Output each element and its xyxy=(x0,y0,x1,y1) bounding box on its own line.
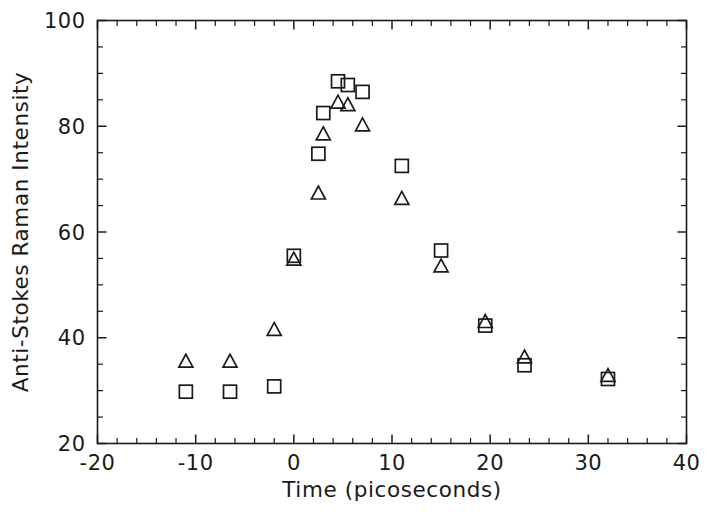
x-tick-label: 0 xyxy=(287,451,301,475)
data-point-square xyxy=(356,85,369,98)
data-point-triangle xyxy=(601,369,615,382)
data-point-triangle xyxy=(179,354,193,367)
data-point-square xyxy=(268,380,281,393)
y-axis-title: Anti-Stokes Raman Intensity xyxy=(8,72,33,393)
data-point-square xyxy=(601,372,614,385)
data-point-square xyxy=(179,385,192,398)
data-series-squares xyxy=(179,75,614,398)
data-series-triangles xyxy=(179,95,615,381)
data-point-square xyxy=(317,107,330,120)
plot-frame xyxy=(98,21,687,444)
data-point-triangle xyxy=(223,354,237,367)
y-tick-label: 40 xyxy=(58,326,86,350)
x-tick-label: -10 xyxy=(178,451,214,475)
x-axis-tick-labels: -20-10010203040 xyxy=(80,451,701,475)
data-point-triangle xyxy=(518,350,532,363)
y-tick-label: 80 xyxy=(58,115,86,139)
data-point-triangle xyxy=(267,323,281,336)
data-point-triangle xyxy=(395,191,409,204)
data-point-square xyxy=(395,159,408,172)
data-point-square xyxy=(224,385,237,398)
x-tick-label: 40 xyxy=(673,451,701,475)
y-tick-label: 60 xyxy=(58,221,86,245)
data-point-triangle xyxy=(316,127,330,140)
data-point-triangle xyxy=(434,259,448,272)
y-tick-label: 100 xyxy=(44,9,86,33)
data-point-square xyxy=(518,359,531,372)
x-axis-ticks xyxy=(98,21,687,444)
data-point-triangle xyxy=(478,315,492,328)
scatter-plot-figure: -20-10010203040 20406080100 Time (picose… xyxy=(0,0,707,512)
data-point-triangle xyxy=(311,186,325,199)
x-tick-label: 30 xyxy=(574,451,602,475)
data-point-square xyxy=(435,244,448,257)
x-tick-label: 20 xyxy=(476,451,504,475)
data-point-square xyxy=(332,75,345,88)
data-point-triangle xyxy=(287,252,301,265)
y-tick-label: 20 xyxy=(58,432,86,456)
y-axis-tick-labels: 20406080100 xyxy=(44,9,86,456)
data-point-square xyxy=(479,319,492,332)
plot-canvas: -20-10010203040 20406080100 Time (picose… xyxy=(0,0,707,512)
y-axis-ticks xyxy=(98,21,687,444)
data-point-triangle xyxy=(356,118,370,131)
x-tick-label: 10 xyxy=(378,451,406,475)
data-point-square xyxy=(312,147,325,160)
data-point-square xyxy=(341,79,354,92)
x-axis-title: Time (picoseconds) xyxy=(281,477,502,502)
